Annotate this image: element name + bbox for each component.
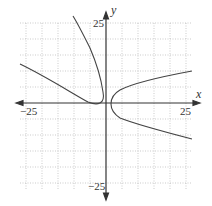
axes — [16, 12, 200, 200]
left-curve — [20, 16, 104, 104]
x-min-label: −25 — [20, 105, 38, 117]
x-axis-label: x — [195, 87, 202, 101]
y-max-label: 25 — [93, 17, 105, 29]
y-min-label: −25 — [88, 180, 106, 192]
x-max-label: 25 — [180, 105, 192, 117]
y-axis-label: y — [110, 3, 117, 17]
graph: y x 25 −25 −25 25 — [0, 0, 212, 206]
